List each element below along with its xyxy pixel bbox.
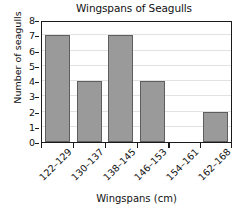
x-tick-label: 154–161 [164,146,201,183]
bar-slot [74,22,106,142]
y-tick-mark [35,36,39,37]
bar-slot [137,22,169,142]
bar [203,112,228,143]
bar [140,81,165,142]
y-axis-ticks: 012345678 [20,21,39,143]
x-axis-title: Wingspans (cm) [41,193,232,204]
bar-series [42,22,231,142]
x-tick-label: 138–145 [101,146,138,183]
x-tick-label: 146–153 [132,146,169,183]
bar-slot [200,22,232,142]
bar-slot [105,22,137,142]
y-tick-mark [35,113,39,114]
bar [77,81,102,142]
y-tick-mark [35,143,39,144]
y-tick-mark [35,97,39,98]
bar-slot [168,22,200,142]
chart-title: Wingspans of Seagulls [36,2,232,14]
x-axis-tick-labels: 122–129130–137138–145146–153154–161162–1… [41,146,232,190]
bar-chart: Wingspans of Seagulls Number of seagulls… [0,0,236,209]
x-tick-label: 122–129 [37,146,74,183]
x-tick-label: 130–137 [69,146,106,183]
y-tick-mark [35,67,39,68]
y-tick-mark [35,52,39,53]
bar [45,35,70,142]
plot-area [41,21,232,143]
y-tick-mark [35,21,39,22]
y-tick-mark [35,82,39,83]
bar-slot [42,22,74,142]
y-tick-mark [35,128,39,129]
bar [108,35,133,142]
x-tick-label: 162–168 [196,146,233,183]
